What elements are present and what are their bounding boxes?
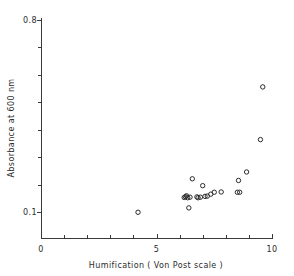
y-tick-label-max: 0.8 <box>23 16 37 25</box>
data-point <box>258 137 262 141</box>
data-point <box>212 190 216 194</box>
data-point <box>261 85 265 89</box>
data-point <box>219 190 223 194</box>
y-axis-ticks <box>37 21 42 213</box>
x-tick-label-0: 0 <box>38 245 44 254</box>
x-axis-ticks <box>42 234 273 239</box>
data-point <box>201 183 205 187</box>
data-point <box>236 178 240 182</box>
data-point <box>244 170 248 174</box>
plot-canvas: 0.8 0.1 0 5 10 Humification ( Von Post s… <box>0 0 294 276</box>
scatter-plot-figure: 0.8 0.1 0 5 10 Humification ( Von Post s… <box>0 0 294 276</box>
x-tick-label-5: 5 <box>154 245 160 254</box>
x-tick-label-10: 10 <box>267 245 278 254</box>
data-point <box>136 210 140 214</box>
data-point-group <box>136 85 265 215</box>
y-axis-title: Absorbance at 600 nm <box>7 78 16 177</box>
x-axis-title: Humification ( Von Post scale ) <box>89 261 223 270</box>
data-point <box>190 177 194 181</box>
data-point <box>187 206 191 210</box>
y-tick-label-min: 0.1 <box>23 208 37 217</box>
